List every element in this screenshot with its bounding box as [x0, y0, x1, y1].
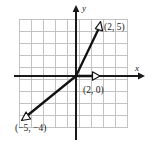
point-label-minus5-minus4: (−5, −4): [15, 124, 46, 134]
point-label-2-5: (2, 5): [104, 23, 125, 33]
grid-lines: [19, 19, 128, 128]
y-axis-arrowhead: [73, 5, 80, 12]
coordinate-grid-figure: y x (2, 5) (2, 0) (−5, −4): [0, 0, 154, 153]
point-label-2-0: (2, 0): [83, 86, 104, 96]
x-axis-label: x: [135, 64, 139, 73]
vector-2-0-arrowhead: [93, 72, 101, 80]
vector-2-5-arrowhead: [95, 22, 102, 32]
x-axis-arrowhead: [138, 73, 145, 80]
y-axis-label: y: [82, 4, 86, 13]
